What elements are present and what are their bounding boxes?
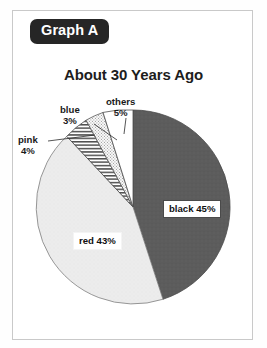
slice-label-blue-name: blue: [60, 104, 80, 115]
leader-line-blue: [94, 124, 117, 140]
slice-label-red-pct: 43%: [97, 235, 116, 246]
slice-label-others: others 5%: [106, 96, 135, 119]
slice-label-blue-pct: 3%: [60, 115, 80, 126]
leader-line-pink: [48, 135, 95, 141]
slice-label-black-name: black: [169, 203, 194, 214]
slice-label-pink-name: pink: [18, 134, 38, 145]
slice-label-blue: blue 3%: [60, 104, 80, 127]
slice-label-others-name: others: [106, 96, 135, 107]
slice-label-black: black 45%: [163, 200, 221, 218]
leader-lines: [0, 0, 267, 348]
figure-root: Graph A About 30 Years Ago: [0, 0, 267, 348]
leader-line-others: [124, 118, 126, 134]
slice-label-others-pct: 5%: [106, 107, 135, 118]
slice-label-red-name: red: [79, 235, 94, 246]
slice-label-red: red 43%: [73, 232, 122, 250]
slice-label-pink-pct: 4%: [18, 145, 38, 156]
slice-label-black-pct: 45%: [196, 203, 215, 214]
slice-label-pink: pink 4%: [18, 134, 38, 157]
